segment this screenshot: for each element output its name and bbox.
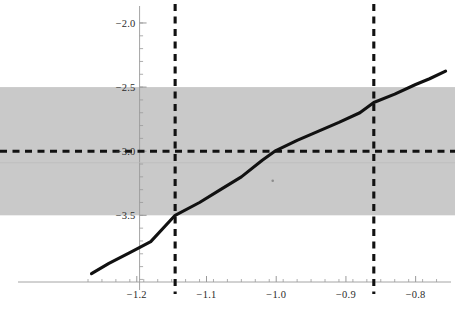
y-tick-label: −2.0 <box>116 17 136 28</box>
y-tick-label: −2.5 <box>116 82 136 93</box>
y-tick-label: −3.0 <box>116 146 136 157</box>
x-tick-label: −0.8 <box>406 289 426 300</box>
chart-figure: −2.0−2.5−3.0−3.5 −1.2−1.1−1.0−0.9−0.8 <box>0 0 455 316</box>
plot-area <box>0 0 455 316</box>
x-tick-label: −1.1 <box>197 289 217 300</box>
x-tick-label: −1.0 <box>266 289 286 300</box>
chart-annotations <box>271 179 274 182</box>
stray-mark <box>271 179 274 182</box>
x-axis-ticks <box>88 276 437 282</box>
y-tick-label: −3.5 <box>116 210 136 221</box>
x-tick-label: −1.2 <box>127 289 147 300</box>
x-tick-label: −0.9 <box>336 289 356 300</box>
